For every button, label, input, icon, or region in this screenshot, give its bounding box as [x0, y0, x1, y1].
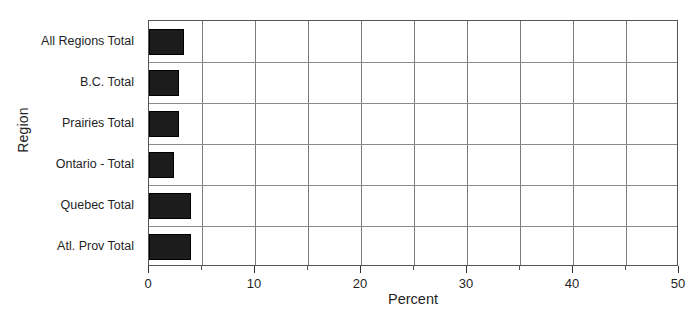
bar-row	[149, 103, 179, 144]
x-tick-major	[572, 266, 573, 273]
y-tick-label: All Regions Total	[18, 20, 142, 61]
x-tick-minor	[413, 266, 414, 270]
x-tick-major	[148, 266, 149, 273]
x-tick-minor	[307, 266, 308, 270]
x-tick-major	[466, 266, 467, 273]
bar-row	[149, 62, 179, 103]
bar[interactable]	[149, 29, 184, 55]
x-tick-major	[254, 266, 255, 273]
bar-row	[149, 21, 184, 62]
bars-layer	[149, 21, 677, 265]
x-tick-minor	[519, 266, 520, 270]
x-tick-minor	[625, 266, 626, 270]
bar[interactable]	[149, 234, 191, 260]
x-tick-label: 0	[144, 276, 151, 291]
x-tick-label: 30	[459, 276, 473, 291]
y-tick-label: Prairies Total	[18, 102, 142, 143]
plot-area	[148, 20, 678, 266]
x-tick-label: 20	[353, 276, 367, 291]
bar-row	[149, 185, 191, 226]
bar[interactable]	[149, 111, 179, 137]
x-axis-ticks	[148, 266, 678, 273]
bar-chart: Region All Regions Total B.C. Total Prai…	[0, 0, 700, 321]
y-tick-label: Atl. Prov Total	[18, 225, 142, 266]
y-tick-label: Ontario - Total	[18, 143, 142, 184]
x-tick-major	[678, 266, 679, 273]
x-axis-title: Percent	[148, 291, 678, 307]
y-tick-label: B.C. Total	[18, 61, 142, 102]
bar[interactable]	[149, 152, 174, 178]
x-tick-label: 40	[565, 276, 579, 291]
x-tick-label: 10	[247, 276, 261, 291]
bar-row	[149, 144, 174, 185]
bar[interactable]	[149, 193, 191, 219]
bar[interactable]	[149, 70, 179, 96]
x-tick-label: 50	[671, 276, 685, 291]
y-tick-label: Quebec Total	[18, 184, 142, 225]
x-tick-minor	[201, 266, 202, 270]
x-tick-major	[360, 266, 361, 273]
bar-row	[149, 226, 191, 267]
y-axis-tick-labels: All Regions Total B.C. Total Prairies To…	[18, 20, 142, 266]
